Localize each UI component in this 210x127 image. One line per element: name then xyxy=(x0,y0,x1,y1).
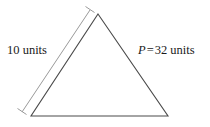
triangle-diagram-canvas xyxy=(0,0,210,127)
perimeter-variable: P xyxy=(138,43,146,57)
measure-tick-top-icon xyxy=(86,7,95,13)
measure-line-left-side xyxy=(22,10,90,112)
side-length-label: 10 units xyxy=(7,44,47,57)
measure-tick-bottom-icon xyxy=(18,109,27,115)
perimeter-unit: units xyxy=(170,43,194,57)
triangle-outline xyxy=(31,14,168,116)
equals-sign: = xyxy=(146,43,155,57)
perimeter-label: P=32 units xyxy=(138,44,195,57)
geometry-figure: 10 units P=32 units xyxy=(0,0,210,127)
perimeter-value: 32 xyxy=(155,43,168,57)
